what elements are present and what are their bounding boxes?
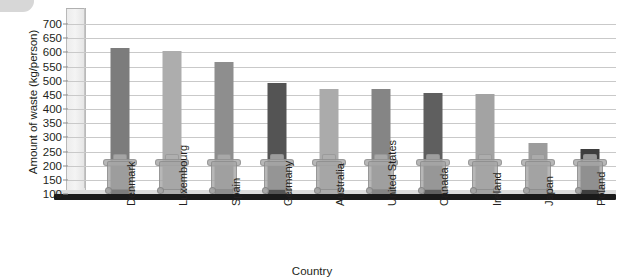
x-axis-category-label: United States [386, 140, 398, 206]
y-axis-tick [63, 151, 68, 152]
bar-denmark [94, 24, 146, 194]
chart-left-wall-top [66, 8, 86, 9]
bin-wheel-icon [262, 187, 269, 194]
x-axis-title: Country [0, 265, 624, 277]
y-axis-tick [63, 194, 68, 195]
y-axis-tick [63, 165, 68, 166]
bin-wheel-icon [105, 187, 112, 194]
y-axis-tick [63, 66, 68, 67]
x-axis-category-label: Spain [230, 178, 242, 206]
y-axis-tick-label: 200 [28, 160, 62, 172]
bar-poland [564, 24, 616, 194]
bar-luxembourg [146, 24, 198, 194]
y-axis-tick-label: 400 [28, 103, 62, 115]
y-axis-tick [63, 137, 68, 138]
y-axis-tick-label: 350 [28, 117, 62, 129]
bar-germany [251, 24, 303, 194]
x-axis-category-label: Australia [334, 163, 346, 206]
y-axis-tick-label: 500 [28, 75, 62, 87]
bar-spain [198, 24, 250, 194]
y-axis-tick-label: 250 [28, 146, 62, 158]
y-axis-tick [63, 123, 68, 124]
y-axis-tick [63, 52, 68, 53]
x-axis-category-label: Luxembourg [177, 145, 189, 206]
y-axis-tick [63, 94, 68, 95]
x-axis-category-label: Canada [438, 167, 450, 206]
bar-australia [303, 24, 355, 194]
y-axis-tick [63, 80, 68, 81]
y-axis-tick-label: 150 [28, 174, 62, 186]
y-axis-tick-label: 650 [28, 32, 62, 44]
waste-by-country-bar-chart: Amount of waste (kg/person) 100150200250… [0, 0, 624, 279]
bin-wheel-icon [366, 187, 373, 194]
y-axis-tick-label: 100 [28, 188, 62, 200]
bin-wheel-icon [209, 187, 216, 194]
x-axis-category-label: Japan [543, 176, 555, 206]
bin-wheel-icon [157, 187, 164, 194]
y-axis-tick-label: 700 [28, 18, 62, 30]
y-axis-tick [63, 24, 68, 25]
y-axis-tick-label: 600 [28, 46, 62, 58]
y-axis-tick-label: 300 [28, 131, 62, 143]
bin-wheel-icon [314, 187, 321, 194]
bin-wheel-icon [470, 187, 477, 194]
x-axis-category-label: Germany [282, 161, 294, 206]
y-axis-tick-label: 550 [28, 61, 62, 73]
y-axis-tick [63, 109, 68, 110]
x-axis-category-label: Ireland [491, 172, 503, 206]
y-axis-tick [63, 179, 68, 180]
y-axis-tick [63, 38, 68, 39]
chart-wall-edge [84, 8, 85, 188]
bin-wheel-icon [575, 187, 582, 194]
bar-japan [512, 24, 564, 194]
page-corner-tab [0, 0, 34, 12]
bin-wheel-icon [523, 187, 530, 194]
bar-united-states [355, 24, 407, 194]
bar-ireland [459, 24, 511, 194]
x-axis-category-label: Poland [595, 172, 607, 206]
bar-canada [407, 24, 459, 194]
bin-wheel-icon [418, 187, 425, 194]
y-axis-tick-label: 450 [28, 89, 62, 101]
x-axis-category-label: Denmark [125, 161, 137, 206]
